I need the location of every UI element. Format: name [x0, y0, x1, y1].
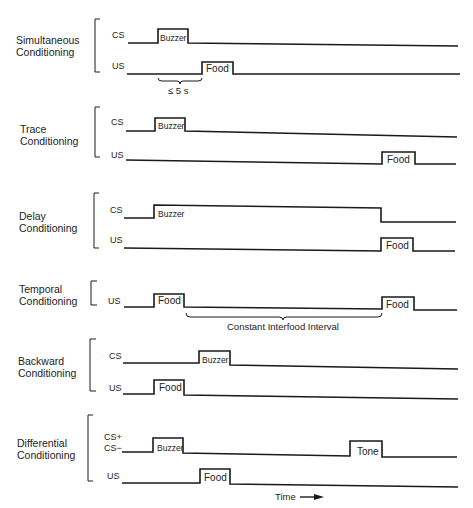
group-label-line: Simultaneous [16, 34, 80, 46]
time-axis-label: Time [275, 491, 296, 502]
bracket-simultaneous [95, 19, 100, 72]
stimulus-food: Food [387, 154, 410, 165]
group-label-backward: Backward Conditioning [18, 355, 76, 379]
group-label-delay: Delay Conditioning [19, 210, 77, 234]
signal-label-us: US [112, 61, 125, 71]
cs-trace-backward [123, 351, 458, 369]
bracket-temporal [91, 281, 97, 305]
group-label-line: Conditioning [17, 449, 75, 461]
signal-label-cs: CS [109, 351, 122, 361]
us-trace-simultaneous [127, 62, 460, 74]
signal-label-cs: CS [110, 205, 123, 215]
group-label-line: Differential [17, 437, 75, 449]
signal-label-cs: CS [112, 30, 125, 40]
group-label-line: Backward [18, 355, 76, 367]
stimulus-buzzer: Buzzer [158, 121, 184, 131]
brace-interfood [186, 313, 382, 320]
stimulus-buzzer: Buzzer [158, 209, 184, 219]
bracket-differential [88, 415, 93, 481]
stimulus-tone: Tone [357, 446, 379, 457]
interval-annotation: ≤ 5 s [168, 85, 189, 96]
stimulus-buzzer: Buzzer [202, 355, 228, 365]
group-label-line: Conditioning [16, 46, 80, 58]
signal-label-us: US [109, 383, 122, 393]
right-arrow-icon [300, 494, 324, 500]
group-label-temporal: Temporal Conditioning [19, 283, 77, 307]
timing-diagram-lines [0, 0, 473, 508]
group-label-line: Delay [19, 210, 77, 222]
group-label-line: Temporal [19, 283, 77, 295]
stimulus-food: Food [159, 382, 182, 393]
signal-label-cs: CS [111, 117, 124, 127]
group-label-line: Conditioning [20, 135, 78, 147]
group-label-line: Trace [20, 123, 78, 135]
group-label-line: Conditioning [19, 295, 77, 307]
bracket-trace [95, 107, 100, 157]
bracket-backward [90, 339, 96, 391]
group-label-line: Conditioning [18, 367, 76, 379]
stimulus-buzzer: Buzzer [157, 443, 183, 453]
stimulus-food: Food [386, 299, 409, 310]
us-trace-differential [122, 469, 458, 487]
signal-label-us: US [111, 150, 124, 160]
bracket-delay [94, 193, 99, 248]
interval-annotation: Constant Interfood Interval [227, 321, 339, 332]
stimulus-food: Food [386, 240, 409, 251]
brace-5s [158, 78, 202, 84]
stimulus-buzzer: Buzzer [160, 33, 186, 43]
signal-label-cs-minus: CS− [104, 443, 122, 453]
group-label-simultaneous: Simultaneous Conditioning [16, 34, 80, 58]
stimulus-food: Food [206, 63, 229, 74]
group-label-line: Conditioning [19, 222, 77, 234]
group-label-trace: Trace Conditioning [20, 123, 78, 147]
signal-label-us: US [107, 471, 120, 481]
stimulus-food: Food [158, 295, 181, 306]
signal-label-us: US [108, 296, 121, 306]
group-label-differential: Differential Conditioning [17, 437, 75, 461]
stimulus-food: Food [204, 472, 227, 483]
signal-label-cs-plus: CS+ [104, 432, 122, 442]
signal-label-us: US [110, 235, 123, 245]
